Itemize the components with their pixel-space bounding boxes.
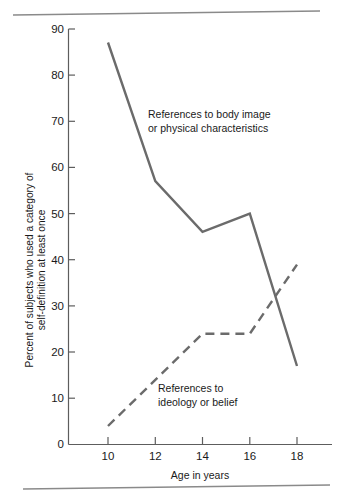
figure-container: 90 80 70 60 50 40 30 20 10 0 10 12 14 16… (0, 0, 347, 503)
y-tick-label-40: 40 (51, 254, 64, 266)
y-tick-label-0: 0 (58, 438, 64, 450)
y-tick-label-90: 90 (51, 23, 64, 35)
y-tick-label-10: 10 (51, 392, 64, 404)
x-tick-label-18: 18 (291, 450, 304, 462)
y-axis-title-line2: self-definition at least once (36, 209, 47, 330)
y-tick-label-30: 30 (51, 300, 64, 312)
y-tick-label-50: 50 (51, 208, 64, 220)
y-axis-title-line1: Percent of subjects who used a category … (24, 172, 35, 367)
annotation-body-image-line1: References to body image (148, 108, 271, 120)
y-axis-ticks (69, 29, 76, 398)
x-tick-label-16: 16 (243, 450, 256, 462)
x-axis-ticks (108, 437, 297, 445)
bottom-rule (23, 485, 330, 489)
y-tick-label-20: 20 (51, 346, 64, 358)
y-tick-label-80: 80 (51, 69, 64, 81)
top-rule (13, 11, 320, 15)
x-tick-label-10: 10 (102, 450, 115, 462)
x-tick-label-14: 14 (196, 450, 209, 462)
annotation-ideology-line1: References to (158, 382, 224, 394)
y-tick-label-70: 70 (51, 115, 64, 127)
line-chart: 90 80 70 60 50 40 30 20 10 0 10 12 14 16… (0, 0, 347, 503)
series-line-body-image (108, 43, 297, 367)
annotation-ideology-line2: ideology or belief (158, 396, 237, 408)
annotation-body-image-line2: or physical characteristics (148, 122, 268, 134)
x-tick-label-12: 12 (149, 450, 162, 462)
x-axis-title: Age in years (171, 469, 229, 481)
y-tick-label-60: 60 (51, 161, 64, 173)
